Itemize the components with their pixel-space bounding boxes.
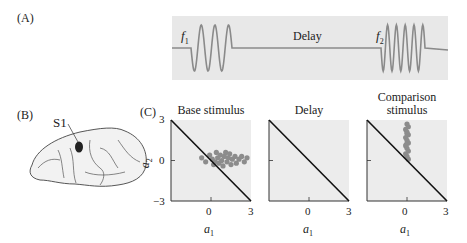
scatter-plots — [0, 0, 467, 243]
